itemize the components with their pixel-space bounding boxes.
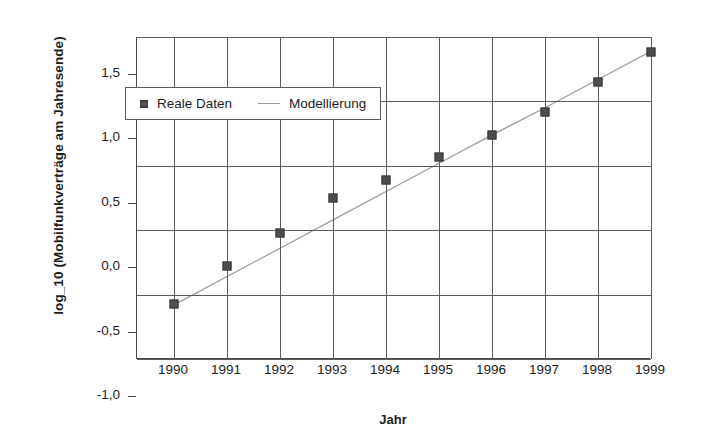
data-point-marker: [170, 299, 179, 308]
plot-area: [136, 37, 650, 359]
y-tick-label: -1,0: [97, 387, 120, 402]
data-point-marker: [276, 228, 285, 237]
x-axis-ticks: 1990199119921993199419951996199719981999: [136, 362, 650, 392]
data-point-marker: [647, 48, 656, 57]
data-point-marker: [223, 262, 232, 271]
data-point-marker: [382, 175, 391, 184]
x-tick-label: 1999: [635, 362, 665, 377]
y-tick-mark: [128, 203, 136, 204]
modellierung-series-line: [137, 37, 651, 359]
y-tick-label: 0,5: [101, 194, 120, 209]
y-tick-mark: [128, 396, 136, 397]
data-point-marker: [488, 130, 497, 139]
data-point-marker: [329, 194, 338, 203]
y-tick-mark: [128, 74, 136, 75]
x-gridline: [280, 37, 281, 359]
y-tick-mark: [128, 138, 136, 139]
chart-legend: Reale Daten Modellierung: [125, 87, 381, 120]
legend-label-modellierung: Modellierung: [289, 96, 366, 111]
legend-item-reale-daten: Reale Daten: [140, 96, 232, 111]
x-gridline: [545, 37, 546, 359]
x-tick-label: 1995: [423, 362, 453, 377]
x-gridline: [174, 37, 175, 359]
x-tick-label: 1991: [211, 362, 241, 377]
y-tick-label: 1,5: [101, 65, 120, 80]
x-tick-label: 1998: [582, 362, 612, 377]
y-gridline: [137, 359, 651, 360]
y-gridline: [137, 166, 651, 167]
y-gridline: [137, 37, 651, 38]
x-gridline: [227, 37, 228, 359]
legend-item-modellierung: Modellierung: [258, 96, 366, 111]
chart-figure: log_10 (Mobilfunkverträge am Jahresende)…: [0, 0, 702, 446]
y-gridline: [137, 230, 651, 231]
x-tick-label: 1996: [476, 362, 506, 377]
x-tick-label: 1994: [370, 362, 400, 377]
x-axis-title: Jahr: [136, 412, 650, 427]
x-tick-label: 1993: [317, 362, 347, 377]
x-tick-label: 1992: [264, 362, 294, 377]
data-point-marker: [435, 152, 444, 161]
x-gridline: [492, 37, 493, 359]
y-tick-label: 1,0: [101, 129, 120, 144]
y-tick-mark: [128, 267, 136, 268]
y-tick-mark: [128, 332, 136, 333]
data-point-marker: [594, 78, 603, 87]
y-tick-label: -0,5: [97, 323, 120, 338]
y-tick-label: 0,0: [101, 258, 120, 273]
x-tick-label: 1997: [529, 362, 559, 377]
x-gridline: [386, 37, 387, 359]
y-gridline: [137, 295, 651, 296]
data-point-marker: [541, 107, 550, 116]
x-gridline: [439, 37, 440, 359]
x-tick-label: 1990: [158, 362, 188, 377]
square-marker-icon: [140, 100, 148, 108]
line-marker-icon: [258, 103, 280, 104]
legend-label-reale-daten: Reale Daten: [157, 96, 232, 111]
y-axis-title: log_10 (Mobilfunkverträge am Jahresende): [51, 6, 66, 346]
x-gridline: [651, 37, 652, 359]
